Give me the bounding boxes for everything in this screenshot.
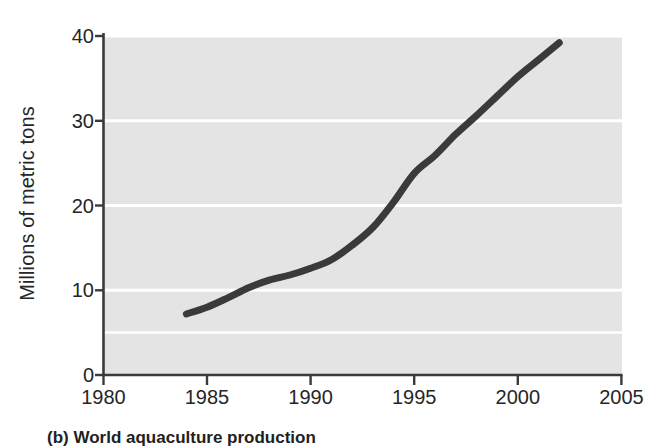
x-axis-ticks [104,375,622,385]
y-tick-label-30: 30 [48,109,94,132]
x-axis-tick-labels: 1980 1985 1990 1995 2000 2005 [0,386,672,414]
y-tick-label-20: 20 [48,194,94,217]
figure-caption: (b) World aquaculture production [47,428,316,448]
x-tick-label-1980: 1980 [64,386,144,409]
x-tick-label-2000: 2000 [478,386,558,409]
x-tick-label-1995: 1995 [374,386,454,409]
y-axis-title: Millions of metric tons [16,44,39,364]
y-tick-label-10: 10 [48,279,94,302]
y-axis-tick-labels: 40 30 20 10 0 [44,0,94,444]
y-tick-label-40: 40 [48,25,94,48]
x-tick-label-2005: 2005 [581,386,661,409]
y-tick-label-0: 0 [48,364,94,387]
y-axis-ticks [95,36,103,375]
x-tick-label-1985: 1985 [167,386,247,409]
x-tick-label-1990: 1990 [271,386,351,409]
